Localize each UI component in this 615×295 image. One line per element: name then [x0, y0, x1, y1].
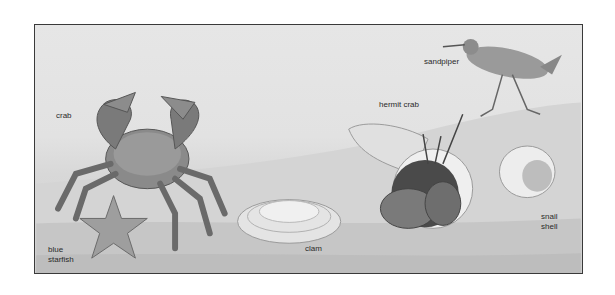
- hermit-crab-label: hermit crab: [379, 100, 419, 110]
- sandpiper-drawing: [443, 39, 562, 116]
- snail-shell-label-line2: shell: [541, 222, 557, 232]
- snail-shell-drawing: [499, 146, 555, 198]
- illustration-frame: crab sandpiper hermit crab clam snail sh…: [34, 24, 583, 274]
- clam-label: clam: [305, 244, 322, 254]
- blue-starfish-label-line2: starfish: [48, 255, 74, 265]
- snail-shell-label-line1: snail: [541, 212, 557, 222]
- beach-scene: [35, 25, 582, 273]
- sand-bottom: [36, 253, 581, 273]
- crab-label: crab: [56, 111, 72, 121]
- blue-starfish-label-line1: blue: [48, 245, 63, 255]
- sandpiper-label: sandpiper: [424, 57, 459, 67]
- clam-drawing: [238, 200, 341, 244]
